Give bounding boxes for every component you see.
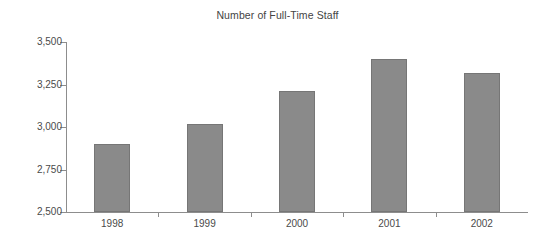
x-axis-tick-mark: [251, 212, 252, 217]
x-axis-tick-mark: [158, 212, 159, 217]
y-axis-tick-label: 2,500: [37, 206, 62, 217]
bar: [279, 91, 315, 212]
x-axis-label: 1998: [72, 218, 152, 229]
y-axis-tick-label: 2,750: [37, 164, 62, 175]
chart-title: Number of Full-Time Staff: [0, 9, 555, 21]
x-axis-tick-mark: [436, 212, 437, 217]
x-axis-line: [66, 212, 528, 213]
y-axis-tick-label: 3,250: [37, 79, 62, 90]
x-axis-label: 2002: [442, 218, 522, 229]
x-axis-label: 2001: [349, 218, 429, 229]
x-axis-tick-mark: [343, 212, 344, 217]
y-axis-tick-label: 3,000: [37, 121, 62, 132]
bar: [464, 73, 500, 212]
plot-area: 2,5002,7503,0003,2503,500: [66, 42, 528, 212]
x-axis-label: 1999: [165, 218, 245, 229]
x-axis-label: 2000: [257, 218, 337, 229]
y-axis-tick-label: 3,500: [37, 36, 62, 47]
bar-chart-figure: Number of Full-Time Staff 2,5002,7503,00…: [0, 0, 555, 250]
bar: [94, 144, 130, 212]
bar: [371, 59, 407, 212]
bar: [187, 124, 223, 212]
